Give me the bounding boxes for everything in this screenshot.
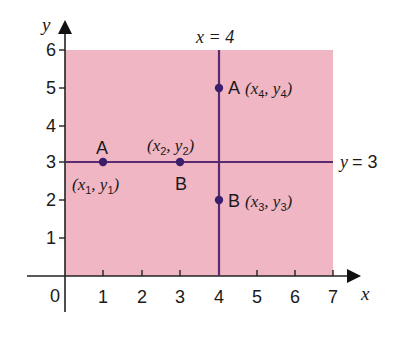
point-a1 (99, 158, 107, 166)
coordinate-diagram: 1 2 3 4 5 6 1 2 3 4 5 6 7 0 y x x = 4 y=… (0, 0, 408, 341)
x-axis-label: x (360, 283, 370, 304)
line-y3-label: y= 3 (338, 152, 378, 172)
point-b2 (176, 158, 184, 166)
svg-text:2: 2 (137, 287, 147, 307)
svg-text:4: 4 (46, 116, 56, 136)
x-tick-labels: 1 2 3 4 5 6 7 (98, 287, 338, 307)
point-a4 (215, 84, 223, 92)
x-axis-arrow-icon (347, 269, 361, 283)
svg-text:6: 6 (46, 40, 56, 60)
y-axis-label: y (40, 14, 51, 35)
point-b2-name: B (175, 174, 187, 194)
svg-text:5: 5 (252, 287, 262, 307)
svg-text:5: 5 (46, 78, 56, 98)
svg-text:4: 4 (214, 287, 224, 307)
y-ticks (59, 50, 65, 238)
point-a1-name: A (96, 138, 108, 158)
svg-text:2: 2 (46, 190, 56, 210)
svg-text:1: 1 (98, 287, 108, 307)
y-tick-labels: 1 2 3 4 5 6 (46, 40, 56, 248)
svg-text:3: 3 (46, 152, 56, 172)
origin-label: 0 (50, 286, 60, 306)
svg-text:7: 7 (328, 287, 338, 307)
svg-text:6: 6 (290, 287, 300, 307)
y-axis-arrow-icon (58, 20, 72, 34)
svg-text:3: 3 (175, 287, 185, 307)
svg-text:1: 1 (46, 228, 56, 248)
line-x4-label: x = 4 (195, 27, 234, 47)
point-b3 (215, 196, 223, 204)
